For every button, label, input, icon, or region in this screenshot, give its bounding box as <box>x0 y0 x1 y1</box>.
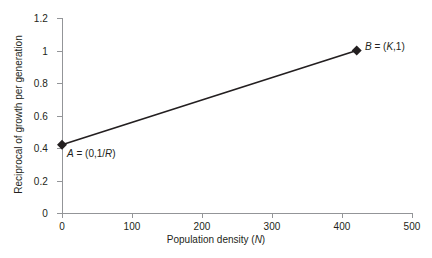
point-b-name: B <box>365 41 372 52</box>
point-label-a: A = (0,1/R) <box>67 148 116 159</box>
chart-figure: 0 0.2 0.4 0.6 0.8 1 1.2 0 100 200 <box>0 0 432 258</box>
data-series-layer <box>0 0 432 258</box>
x-axis-label: Population density (N) <box>0 234 432 245</box>
y-axis-label: Reciprocal of growth per generation <box>13 20 24 210</box>
point-a-name: A <box>67 148 74 159</box>
point-a-tail: ) <box>112 148 115 159</box>
x-axis-label-symbol: N <box>255 234 262 245</box>
point-marker-b <box>352 46 362 56</box>
point-a-text: = (0,1/ <box>74 148 105 159</box>
x-axis-label-text: Population density <box>167 234 249 245</box>
point-marker-a <box>57 140 67 150</box>
point-b-tail: ,1) <box>393 41 405 52</box>
point-b-text: = ( <box>372 41 387 52</box>
point-label-b: B = (K,1) <box>365 41 405 52</box>
series-line <box>62 51 357 145</box>
